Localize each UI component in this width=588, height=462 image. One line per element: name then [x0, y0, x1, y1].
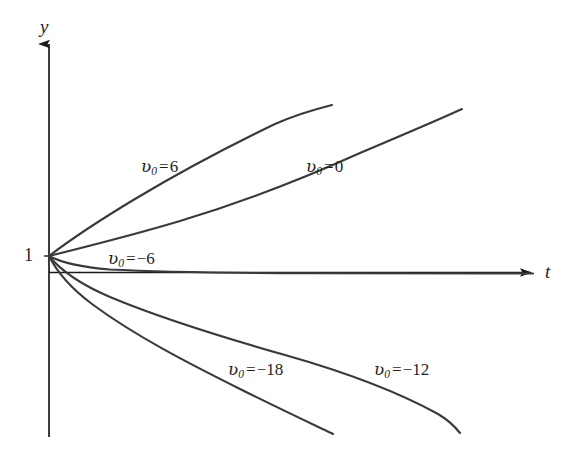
curve-v0-6	[49, 105, 332, 256]
equals-sign: =	[159, 157, 169, 176]
v-symbol: ʋ	[306, 156, 316, 176]
curve-label-v0-neg12: ʋ0=−12	[374, 361, 429, 381]
v-subscript: 0	[151, 165, 157, 177]
y-tick-label-one: 1	[24, 246, 33, 264]
v0-value: −18	[257, 360, 284, 379]
curve-label-v0-neg6: ʋ0=−6	[108, 250, 155, 270]
axes-group	[44, 44, 531, 437]
curve-label-v0-0: ʋ0=0	[306, 158, 343, 178]
equals-sign: =	[392, 360, 402, 379]
v0-value: −12	[403, 360, 430, 379]
v-subscript: 0	[238, 368, 244, 380]
figure-canvas: y t 1 ʋ0=6 ʋ0=0 ʋ0=−6 ʋ0=−18 ʋ0=−12	[0, 0, 588, 462]
curve-v0-neg12	[49, 256, 460, 433]
v0-value: 6	[170, 157, 179, 176]
curve-v0-neg18	[49, 256, 333, 434]
v0-value: −6	[137, 249, 155, 268]
v-symbol: ʋ	[374, 359, 384, 379]
v0-value: 0	[335, 157, 344, 176]
v-symbol: ʋ	[108, 248, 118, 268]
t-axis-label: t	[545, 262, 550, 281]
curve-label-v0-neg18: ʋ0=−18	[228, 361, 283, 381]
v-subscript: 0	[118, 257, 124, 269]
equals-sign: =	[324, 157, 334, 176]
v-symbol: ʋ	[228, 359, 238, 379]
curve-label-v0-6: ʋ0=6	[141, 158, 178, 178]
v-subscript: 0	[384, 368, 390, 380]
v-subscript: 0	[316, 165, 322, 177]
curve-v0-0	[49, 109, 462, 256]
v-symbol: ʋ	[141, 156, 151, 176]
plot-svg	[0, 0, 588, 462]
equals-sign: =	[126, 249, 136, 268]
y-axis-label: y	[40, 17, 48, 36]
equals-sign: =	[246, 360, 256, 379]
